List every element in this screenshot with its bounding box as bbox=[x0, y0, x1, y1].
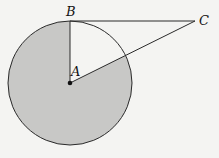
geometry-diagram: A B C bbox=[0, 0, 219, 158]
diagram-canvas: A B C bbox=[0, 0, 219, 158]
label-b: B bbox=[65, 4, 76, 19]
segment-ac bbox=[70, 21, 195, 83]
point-a-dot bbox=[68, 81, 73, 86]
label-a: A bbox=[70, 64, 80, 79]
label-c: C bbox=[199, 13, 209, 28]
